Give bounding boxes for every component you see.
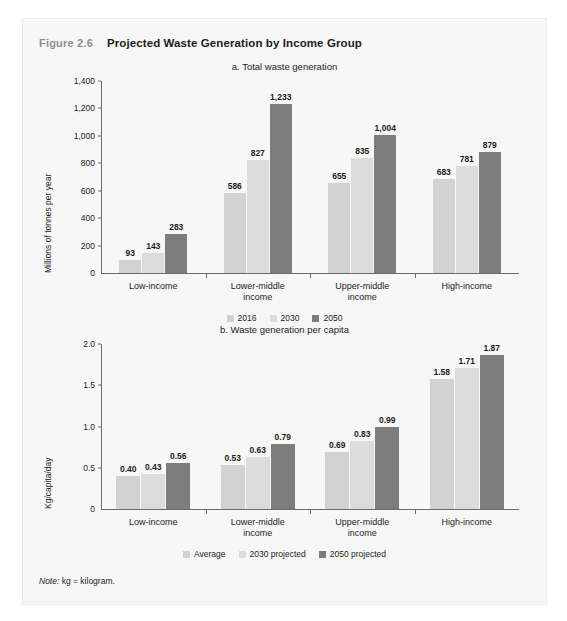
bar: [479, 152, 501, 273]
note-prefix: Note:: [39, 576, 59, 586]
y-axis-tick-mark: [98, 344, 101, 345]
chart-b-subtitle: b. Waste generation per capita: [23, 324, 546, 335]
y-axis-tick-label: 200: [61, 241, 95, 251]
bar: [374, 135, 396, 273]
chart-a-legend: 201620302050: [23, 313, 546, 323]
y-axis-tick-label: 0: [61, 268, 95, 278]
x-axis-separator-tick: [206, 510, 207, 514]
legend-item: 2030 projected: [239, 549, 306, 559]
legend-item: 2016: [227, 313, 257, 323]
legend-label: 2050: [323, 313, 342, 323]
y-axis-line: [101, 344, 102, 509]
legend-item: 2030: [270, 313, 300, 323]
x-axis-separator-tick: [310, 274, 311, 278]
bar-value-label: 0.53: [224, 453, 241, 463]
legend-item: Average: [183, 549, 226, 559]
bar-value-label: 0.40: [120, 464, 137, 474]
y-axis-tick-label: 1,200: [61, 103, 95, 113]
bar-value-label: 827: [251, 148, 265, 158]
bar: [456, 166, 478, 273]
bar-value-label: 1.71: [458, 356, 475, 366]
figure-title: Projected Waste Generation by Income Gro…: [107, 37, 362, 49]
y-axis-tick-label: 1.5: [61, 380, 95, 390]
y-axis-tick-mark: [98, 163, 101, 164]
legend-label: 2016: [238, 313, 257, 323]
bar-value-label: 1,004: [375, 123, 396, 133]
x-axis-category-line: Lower-middle: [231, 281, 285, 292]
y-axis-label: Millions of tonnes per year: [43, 174, 53, 273]
y-axis-tick-label: 2.0: [61, 339, 95, 349]
legend-swatch: [270, 315, 277, 322]
x-axis-category-line: High-income: [441, 517, 492, 528]
bar-value-label: 0.43: [145, 462, 162, 472]
x-axis-separator-tick: [206, 274, 207, 278]
y-axis-label: Kg/capita/day: [43, 457, 53, 509]
y-axis-tick-label: 400: [61, 213, 95, 223]
x-axis-category-line: income: [335, 528, 389, 539]
chart-a-subtitle: a. Total waste generation: [23, 61, 546, 72]
bar-value-label: 781: [460, 154, 474, 164]
bar: [480, 355, 504, 509]
y-axis-tick-mark: [98, 426, 101, 427]
bar-value-label: 586: [228, 181, 242, 191]
y-axis-tick-label: 0: [61, 504, 95, 514]
legend-label: 2050 projected: [330, 549, 386, 559]
bar-value-label: 0.63: [249, 445, 266, 455]
legend-swatch: [319, 551, 326, 558]
y-axis-tick-label: 0.5: [61, 463, 95, 473]
x-axis-category-line: Upper-middle: [335, 517, 389, 528]
bar: [165, 234, 187, 273]
y-axis-tick-mark: [98, 245, 101, 246]
bar-value-label: 143: [146, 241, 160, 251]
figure-card: Figure 2.6 Projected Waste Generation by…: [22, 18, 547, 605]
bar-value-label: 1,233: [270, 92, 291, 102]
legend-swatch: [183, 551, 190, 558]
bar: [375, 427, 399, 509]
x-axis-category-label: High-income: [441, 281, 492, 292]
y-axis-tick-mark: [98, 385, 101, 386]
legend-swatch: [239, 551, 246, 558]
y-axis-tick-mark: [98, 135, 101, 136]
figure-header: Figure 2.6 Projected Waste Generation by…: [39, 37, 362, 49]
bar: [350, 441, 374, 509]
bar: [328, 183, 350, 273]
bar-value-label: 0.56: [170, 451, 187, 461]
bar: [166, 463, 190, 509]
legend-label: Average: [194, 549, 226, 559]
x-axis-separator-tick: [415, 510, 416, 514]
y-axis-line: [101, 81, 102, 273]
x-axis-category-line: income: [231, 528, 285, 539]
y-axis-tick-mark: [98, 81, 101, 82]
bar: [221, 465, 245, 509]
bar: [119, 260, 141, 273]
bar-value-label: 683: [437, 167, 451, 177]
bar: [141, 474, 165, 509]
x-axis-separator-tick: [415, 274, 416, 278]
bar: [325, 452, 349, 509]
x-axis-category-label: Low-income: [129, 281, 178, 292]
chart-total-waste-generation: a. Total waste generation 02004006008001…: [23, 61, 546, 331]
legend-label: 2030 projected: [250, 549, 306, 559]
bar: [455, 368, 479, 509]
figure-page: Figure 2.6 Projected Waste Generation by…: [0, 0, 567, 621]
chart-waste-generation-per-capita: b. Waste generation per capita 00.51.01.…: [23, 324, 546, 574]
chart-b-legend: Average2030 projected2050 projected: [23, 549, 546, 559]
y-axis-tick-label: 1.0: [61, 422, 95, 432]
y-axis-tick-label: 600: [61, 186, 95, 196]
bar: [247, 160, 269, 273]
x-axis-category-line: Low-income: [129, 517, 178, 528]
y-axis-tick-label: 1,000: [61, 131, 95, 141]
x-axis-category-label: Low-income: [129, 517, 178, 528]
x-axis-category-line: Lower-middle: [231, 517, 285, 528]
bar: [430, 379, 454, 509]
figure-number: Figure 2.6: [39, 37, 93, 49]
bar: [270, 104, 292, 273]
legend-swatch: [227, 315, 234, 322]
y-axis-tick-label: 800: [61, 158, 95, 168]
bar-value-label: 0.79: [274, 432, 291, 442]
bar-value-label: 1.58: [433, 367, 450, 377]
bar: [433, 179, 455, 273]
y-axis-tick-label: 1,400: [61, 76, 95, 86]
x-axis-category-label: Lower-middleincome: [231, 281, 285, 303]
x-axis-category-label: High-income: [441, 517, 492, 528]
